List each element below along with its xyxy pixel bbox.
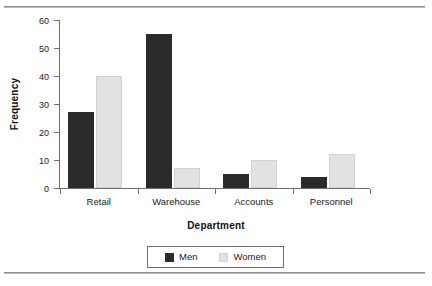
y-axis-tick: 30	[54, 104, 59, 105]
bar-women-personnel	[329, 154, 355, 188]
frame-rule-bottom	[4, 272, 425, 274]
x-axis-tick	[370, 189, 371, 194]
y-axis-tick: 60	[54, 20, 59, 21]
x-axis-title: Department	[0, 220, 432, 231]
bar-men-personnel	[301, 177, 327, 188]
y-axis-tick-label: 0	[44, 184, 49, 193]
legend-label: Women	[233, 252, 266, 262]
y-axis-tick: 0	[54, 188, 59, 189]
chart-figure: 0102030405060 RetailWarehouseAccountsPer…	[0, 0, 432, 286]
plot-area	[60, 20, 370, 188]
y-axis-tick: 20	[54, 132, 59, 133]
x-axis-category-label: Personnel	[293, 196, 371, 207]
legend-swatch-icon	[165, 253, 174, 262]
y-axis-tick-label: 50	[39, 44, 49, 53]
legend-label: Men	[179, 252, 197, 262]
bar-women-accounts	[251, 160, 277, 188]
bar-group	[293, 20, 371, 188]
y-axis-title: Frequency	[9, 78, 20, 130]
y-axis-tick-label: 20	[39, 128, 49, 137]
bar-men-retail	[68, 112, 94, 188]
bar-women-retail	[96, 76, 122, 188]
bar-group	[215, 20, 293, 188]
bar-men-warehouse	[146, 34, 172, 188]
y-axis-tick: 50	[54, 48, 59, 49]
bar-group	[138, 20, 216, 188]
y-axis-tick-label: 40	[39, 72, 49, 81]
x-axis-tick	[293, 189, 294, 194]
y-axis-tick-label: 60	[39, 16, 49, 25]
legend-swatch-icon	[219, 253, 228, 262]
y-axis-tick: 10	[54, 160, 59, 161]
chart-legend: MenWomen	[147, 246, 284, 268]
x-axis-tick	[138, 189, 139, 194]
y-axis-tick-label: 10	[39, 156, 49, 165]
y-axis-tick-label: 30	[39, 100, 49, 109]
x-axis-category-label: Retail	[60, 196, 138, 207]
x-axis-category-label: Warehouse	[138, 196, 216, 207]
frame-rule-top	[4, 6, 425, 8]
x-axis-tick	[60, 189, 61, 194]
x-axis-category-label: Accounts	[215, 196, 293, 207]
x-axis-tick	[215, 189, 216, 194]
bar-women-warehouse	[174, 168, 200, 188]
legend-item-women[interactable]: Women	[219, 252, 266, 262]
bar-men-accounts	[223, 174, 249, 188]
legend-item-men[interactable]: Men	[165, 252, 197, 262]
bar-group	[60, 20, 138, 188]
y-axis-tick: 40	[54, 76, 59, 77]
